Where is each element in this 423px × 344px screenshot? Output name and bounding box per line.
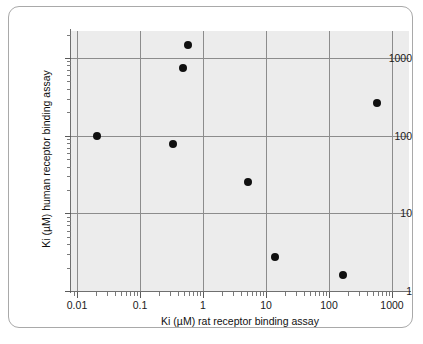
x-axis-minor-tick [189, 292, 190, 296]
x-gridline [329, 31, 330, 291]
y-axis-minor-tick [67, 268, 71, 269]
x-axis-tick-label: 10 [243, 300, 289, 311]
y-axis-tick [65, 58, 71, 59]
x-axis-minor-tick [134, 292, 135, 296]
data-point [93, 132, 101, 140]
x-axis-title: Ki (µM) rat receptor binding assay [71, 315, 409, 327]
x-axis-minor-tick [319, 292, 320, 296]
x-axis-minor-tick [74, 292, 75, 296]
y-gridline [71, 213, 409, 214]
x-axis-minor-tick [247, 292, 248, 296]
x-axis-minor-tick [348, 292, 349, 296]
y-axis-minor-tick [67, 225, 71, 226]
y-axis-minor-tick [67, 244, 71, 245]
y-axis-minor-tick [67, 61, 71, 62]
y-axis-minor-tick [67, 75, 71, 76]
y-axis-minor-tick [67, 35, 71, 36]
y-axis-tick-label: 1 [360, 286, 412, 297]
x-gridline [266, 31, 267, 291]
x-axis-minor-tick [233, 292, 234, 296]
x-axis-tick-label: 0.01 [54, 300, 100, 311]
y-axis-minor-tick [67, 139, 71, 140]
x-axis-minor-tick [197, 292, 198, 296]
y-axis-minor-tick [67, 89, 71, 90]
x-axis-tick [140, 292, 141, 298]
x-axis-minor-tick [323, 292, 324, 296]
x-axis-minor-tick [200, 292, 201, 296]
x-axis-minor-tick [130, 292, 131, 296]
x-axis-minor-tick [260, 292, 261, 296]
x-axis-minor-tick [222, 292, 223, 296]
x-axis-minor-tick [121, 292, 122, 296]
x-axis-minor-tick [193, 292, 194, 296]
x-axis-tick-label: 100 [306, 300, 352, 311]
y-axis-minor-tick [67, 81, 71, 82]
y-gridline [71, 58, 409, 59]
x-gridline [140, 31, 141, 291]
x-axis-minor-tick [252, 292, 253, 296]
x-axis-minor-tick [296, 292, 297, 296]
y-gridline [71, 136, 409, 137]
x-axis-tick [329, 292, 330, 298]
x-axis-minor-tick [126, 292, 127, 296]
y-axis-tick [65, 213, 71, 214]
y-axis-tick-label: 100 [360, 131, 412, 142]
y-axis-minor-tick [67, 237, 71, 238]
figure-frame: 0.010.111010010001101001000 Ki (µM) rat … [8, 6, 413, 328]
x-axis-tick [203, 292, 204, 298]
x-axis-tick-label: 1000 [369, 300, 415, 311]
x-axis-minor-tick [96, 292, 97, 296]
y-axis-minor-tick [67, 176, 71, 177]
x-gridline [392, 31, 393, 291]
y-axis-minor-tick [67, 231, 71, 232]
x-axis-minor-tick [184, 292, 185, 296]
x-gridline [77, 31, 78, 291]
y-axis-tick-label: 1000 [360, 53, 412, 64]
x-axis-minor-tick [115, 292, 116, 296]
x-axis-minor-tick [256, 292, 257, 296]
x-axis-minor-tick [310, 292, 311, 296]
y-axis-minor-tick [67, 254, 71, 255]
y-axis-tick-label: 10 [360, 208, 412, 219]
y-axis-minor-tick [67, 221, 71, 222]
y-axis-minor-tick [67, 148, 71, 149]
y-axis-minor-tick [67, 190, 71, 191]
y-axis-minor-tick [67, 70, 71, 71]
x-axis-minor-tick [315, 292, 316, 296]
x-axis-tick-label: 1 [180, 300, 226, 311]
y-axis-minor-tick [67, 65, 71, 66]
x-axis-minor-tick [304, 292, 305, 296]
y-axis-title: Ki (µM) human receptor binding assay [40, 34, 52, 284]
x-axis-tick [77, 292, 78, 298]
data-point [179, 64, 187, 72]
y-axis-minor-tick [67, 153, 71, 154]
x-axis-minor-tick [241, 292, 242, 296]
x-axis-minor-tick [137, 292, 138, 296]
x-axis-tick-label: 0.1 [117, 300, 163, 311]
x-axis-tick [266, 292, 267, 298]
x-gridline [203, 31, 204, 291]
y-axis-minor-tick [67, 143, 71, 144]
y-axis-minor-tick [67, 167, 71, 168]
x-axis-minor-tick [107, 292, 108, 296]
x-axis-minor-tick [159, 292, 160, 296]
y-axis-tick [65, 136, 71, 137]
y-axis-minor-tick [67, 159, 71, 160]
y-axis-minor-tick [67, 217, 71, 218]
data-point [373, 99, 381, 107]
y-axis-minor-tick [67, 99, 71, 100]
x-axis-minor-tick [263, 292, 264, 296]
x-axis-minor-tick [178, 292, 179, 296]
x-axis-minor-tick [326, 292, 327, 296]
x-axis-minor-tick [285, 292, 286, 296]
y-axis-minor-tick [67, 112, 71, 113]
y-axis-tick [65, 291, 71, 292]
x-axis-minor-tick [170, 292, 171, 296]
plot-area [71, 31, 409, 291]
